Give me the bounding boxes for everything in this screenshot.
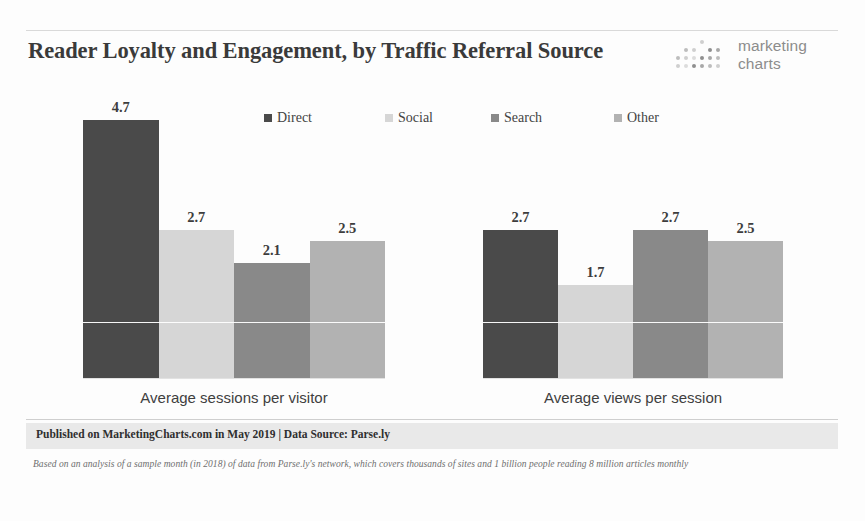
bar-value-label: 2.5 <box>310 220 386 237</box>
bar-value-label: 4.7 <box>83 99 159 116</box>
axis-baseline <box>83 378 385 379</box>
bar-other-group-1 <box>310 241 386 378</box>
bar-value-label: 2.1 <box>234 242 310 259</box>
bar-value-label: 2.7 <box>159 209 235 226</box>
bar-search-group-1 <box>234 263 310 378</box>
footer-published-text: Published on MarketingCharts.com in May … <box>36 428 390 440</box>
bar-value-label: 2.5 <box>708 220 783 237</box>
bar-value-label: 1.7 <box>558 264 633 281</box>
category-label-group-2: Average views per session <box>483 389 783 406</box>
bar-social-group-2 <box>558 285 633 378</box>
bar-value-label: 2.7 <box>633 209 708 226</box>
footer-methodology-note: Based on an analysis of a sample month (… <box>33 459 688 469</box>
axis-baseline <box>483 378 783 379</box>
bar-direct-group-2 <box>483 230 558 378</box>
gridline <box>483 322 783 324</box>
bar-search-group-2 <box>633 230 708 378</box>
gridline <box>83 322 385 324</box>
category-label-group-1: Average sessions per visitor <box>83 389 385 406</box>
bar-direct-group-1 <box>83 120 159 378</box>
bar-social-group-1 <box>159 230 235 378</box>
chart-page: Reader Loyalty and Engagement, by Traffi… <box>0 0 865 521</box>
footer-divider <box>26 419 838 420</box>
bar-value-label: 2.7 <box>483 209 558 226</box>
chart-plot-area: 4.72.72.12.5Average sessions per visitor… <box>0 0 865 400</box>
bar-other-group-2 <box>708 241 783 378</box>
